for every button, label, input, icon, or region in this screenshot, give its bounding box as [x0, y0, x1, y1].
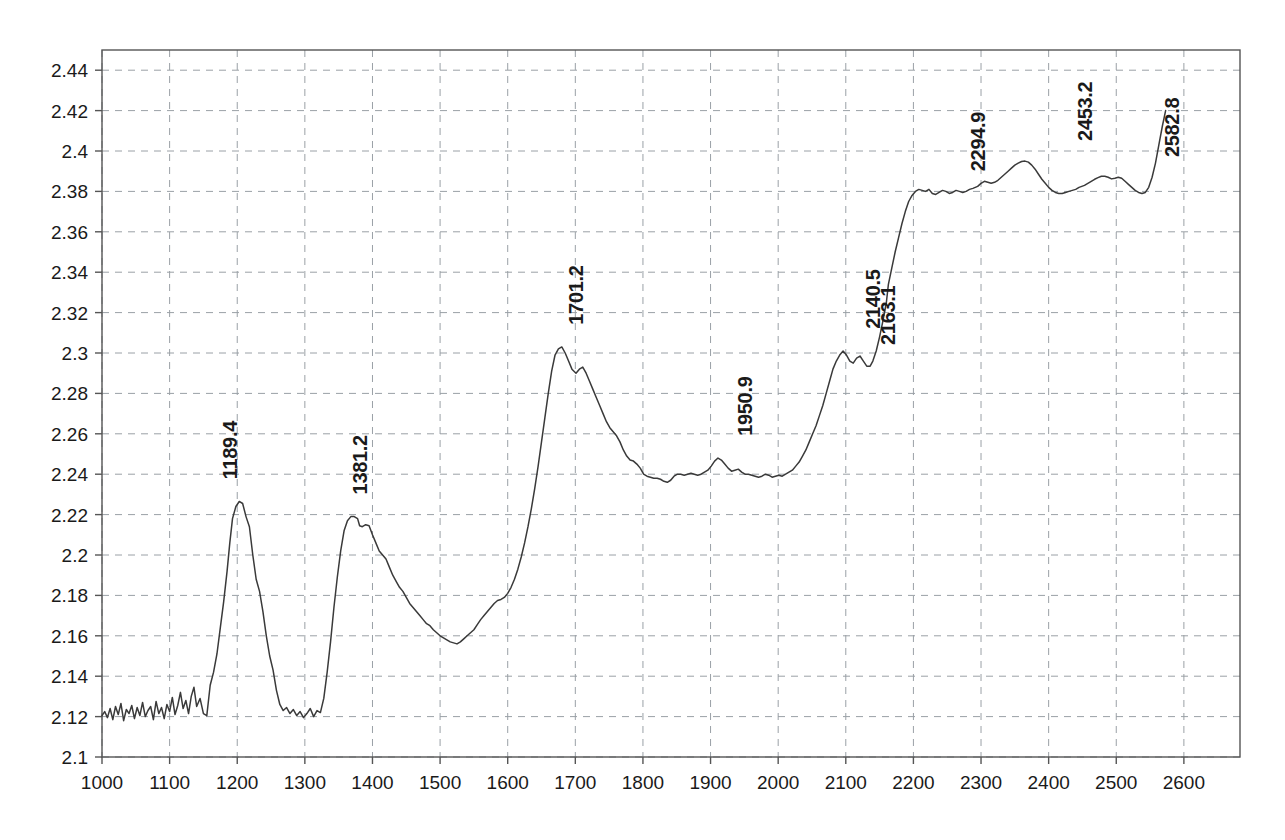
y-tick-label: 2.18	[51, 585, 88, 606]
peak-label: 1189.4	[219, 420, 241, 479]
x-axis-tick-marks	[102, 757, 1184, 764]
x-tick-label: 1600	[487, 772, 529, 793]
peak-label: 1701.2	[565, 265, 587, 325]
x-tick-label: 1500	[419, 772, 461, 793]
y-tick-label: 2.22	[51, 505, 88, 526]
x-tick-label: 2300	[960, 772, 1002, 793]
spectrum-plot: 2.12.122.142.162.182.22.222.242.262.282.…	[0, 0, 1285, 840]
x-axis-tick-labels: 1000110012001300140015001600170018001900…	[81, 772, 1205, 793]
y-tick-label: 2.2	[62, 545, 88, 566]
y-tick-label: 2.3	[62, 343, 88, 364]
peak-label: 1950.9	[734, 376, 756, 436]
y-tick-label: 2.44	[51, 60, 88, 81]
y-tick-label: 2.36	[51, 222, 88, 243]
y-axis-tick-marks	[95, 70, 102, 757]
x-tick-label: 1700	[554, 772, 596, 793]
x-tick-label: 1900	[689, 772, 731, 793]
x-tick-label: 2200	[892, 772, 934, 793]
y-tick-label: 2.38	[51, 181, 88, 202]
x-tick-label: 2400	[1028, 772, 1070, 793]
y-tick-label: 2.26	[51, 424, 88, 445]
y-tick-label: 2.34	[51, 262, 88, 283]
x-tick-label: 1800	[622, 772, 664, 793]
y-tick-label: 2.12	[51, 707, 88, 728]
y-tick-label: 2.28	[51, 383, 88, 404]
y-tick-label: 2.14	[51, 666, 88, 687]
x-tick-label: 2100	[825, 772, 867, 793]
peak-label: 2163.1	[877, 285, 899, 345]
y-tick-label: 2.4	[62, 141, 89, 162]
ftir-spectrum-figure: 2.12.122.142.162.182.22.222.242.262.282.…	[0, 0, 1285, 840]
x-tick-label: 2500	[1095, 772, 1137, 793]
x-tick-label: 2000	[757, 772, 799, 793]
y-tick-label: 2.42	[51, 101, 88, 122]
peak-label: 2453.2	[1074, 81, 1096, 141]
x-tick-label: 1000	[81, 772, 123, 793]
y-tick-label: 2.32	[51, 303, 88, 324]
y-tick-label: 2.16	[51, 626, 88, 647]
x-tick-label: 1400	[351, 772, 393, 793]
peak-label: 1381.2	[349, 435, 371, 495]
x-tick-label: 2600	[1163, 772, 1205, 793]
peak-label: 2582.8	[1161, 98, 1183, 158]
x-tick-label: 1300	[284, 772, 326, 793]
y-tick-label: 2.1	[62, 747, 88, 768]
y-tick-label: 2.24	[51, 464, 88, 485]
peak-label: 2294.9	[967, 112, 989, 172]
plot-background	[102, 50, 1240, 757]
x-tick-label: 1200	[216, 772, 258, 793]
x-tick-label: 1100	[149, 772, 190, 793]
y-axis-tick-labels: 2.12.122.142.162.182.22.222.242.262.282.…	[51, 60, 88, 768]
